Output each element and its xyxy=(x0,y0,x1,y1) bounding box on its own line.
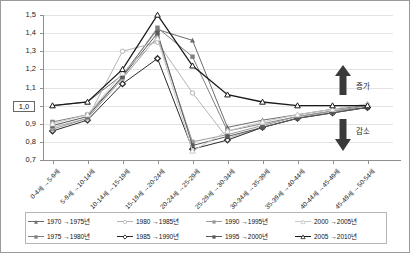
legend-item[interactable]: 1985 →1990년 xyxy=(117,233,206,241)
data-point-marker xyxy=(155,31,159,35)
legend-label: 1980 →1985년 xyxy=(136,218,179,226)
series-5 xyxy=(50,31,369,148)
data-point-marker xyxy=(225,134,229,138)
data-point-marker xyxy=(120,49,124,53)
legend-item[interactable]: 1975 →1980년 xyxy=(28,233,117,241)
data-point-marker xyxy=(190,91,194,95)
data-point-marker xyxy=(212,235,215,238)
legend-label: 1990 →1995년 xyxy=(225,218,268,226)
data-point-marker xyxy=(301,234,305,238)
legend-grid: 1970 →1975년1980 →1985년1990 →1995년2000 →2… xyxy=(26,213,386,244)
legend-label: 1995 →2000년 xyxy=(225,233,268,241)
series-4 xyxy=(50,35,369,145)
series-1 xyxy=(50,25,369,133)
series-line xyxy=(53,37,368,142)
data-point-marker xyxy=(260,99,266,104)
data-point-marker xyxy=(155,25,159,29)
legend-item[interactable]: 2000 →2005년 xyxy=(295,218,384,226)
legend-marker-icon xyxy=(295,233,311,241)
data-point-marker xyxy=(301,219,305,223)
up-arrow-icon xyxy=(334,65,352,95)
legend-marker-icon xyxy=(117,218,133,226)
data-point-marker xyxy=(212,220,215,223)
legend-marker-icon xyxy=(206,218,222,226)
series-2 xyxy=(50,40,369,140)
legend-label: 2000 →2005년 xyxy=(314,218,357,226)
data-point-marker xyxy=(155,12,161,17)
population-migration-line-chart: 0,70,80,91,01,11,21,31,41,5 0-4세 →5-9세5-… xyxy=(0,0,410,253)
legend-marker-icon xyxy=(117,233,133,241)
data-point-marker xyxy=(34,220,38,224)
legend-label: 1970 →1975년 xyxy=(47,218,90,226)
data-point-marker xyxy=(34,235,37,238)
decrease-label: 감소 xyxy=(356,125,370,136)
down-arrow-icon xyxy=(334,119,352,151)
legend-label: 1975 →1980년 xyxy=(47,233,90,241)
data-point-marker xyxy=(50,103,56,108)
data-point-marker xyxy=(260,125,264,129)
data-point-marker xyxy=(190,54,194,58)
increase-label: 증가 xyxy=(356,80,370,91)
data-point-marker xyxy=(123,234,127,238)
legend-marker-icon xyxy=(28,233,44,241)
legend-marker-icon xyxy=(295,218,311,226)
legend-item[interactable]: 1980 →1985년 xyxy=(117,218,206,226)
legend-item[interactable]: 1995 →2000년 xyxy=(206,233,295,241)
data-point-marker xyxy=(295,112,301,117)
series-line xyxy=(53,33,368,145)
legend-item[interactable]: 1970 →1975년 xyxy=(28,218,117,226)
legend-marker-icon xyxy=(206,233,222,241)
data-point-marker xyxy=(330,103,336,108)
data-point-marker xyxy=(123,220,126,223)
legend-label: 1985 →1990년 xyxy=(136,233,179,241)
legend-item[interactable]: 2005 →2010년 xyxy=(295,233,384,241)
legend-item[interactable]: 1990 →1995년 xyxy=(206,218,295,226)
legend-label: 2005 →2010년 xyxy=(314,233,357,241)
legend-marker-icon xyxy=(28,218,44,226)
data-point-marker xyxy=(295,103,301,108)
legend: 1970 →1975년1980 →1985년1990 →1995년2000 →2… xyxy=(25,212,387,244)
